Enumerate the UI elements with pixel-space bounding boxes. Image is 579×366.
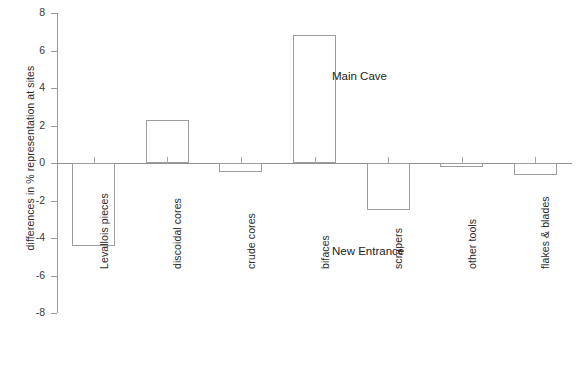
y-tick-label: -2	[36, 194, 45, 206]
bar	[219, 163, 262, 172]
y-tick: 0	[51, 163, 57, 164]
annotation-new-entrance: New Entrance	[332, 245, 404, 257]
y-tick-label: -4	[36, 231, 45, 243]
y-tick-label: -8	[36, 306, 45, 318]
y-tick: -4	[51, 238, 57, 239]
bar	[146, 120, 189, 163]
y-tick: -8	[51, 313, 57, 314]
x-axis-label: other tools	[466, 219, 478, 269]
bar	[440, 163, 483, 167]
x-axis-label: crude cores	[245, 213, 257, 269]
bar	[293, 35, 336, 163]
bar	[367, 163, 410, 210]
y-tick-label: 2	[39, 119, 45, 131]
y-tick: 6	[51, 51, 57, 52]
y-tick: 2	[51, 126, 57, 127]
y-tick-label: 8	[39, 6, 45, 18]
x-axis-label: flakes & blades	[539, 196, 551, 269]
y-tick-label: 4	[39, 81, 45, 93]
x-axis-label: discoidal cores	[171, 198, 183, 269]
annotation-main-cave: Main Cave	[332, 70, 387, 82]
y-tick-label: -6	[36, 269, 45, 281]
y-tick: -6	[51, 276, 57, 277]
bar	[514, 163, 557, 175]
y-tick-label: 0	[39, 156, 45, 168]
y-axis-title: differences in % representation at sites	[24, 8, 36, 308]
y-tick: 4	[51, 88, 57, 89]
plot-area: 86420-2-4-6-8 Levallois piecesdiscoidal …	[57, 13, 572, 313]
y-tick-label: 6	[39, 44, 45, 56]
y-tick: -2	[51, 201, 57, 202]
bar-chart: differences in % representation at sites…	[0, 0, 579, 366]
x-axis-label: bifaces	[319, 235, 331, 269]
y-tick: 8	[51, 13, 57, 14]
x-axis-label: Levallois pieces	[98, 193, 110, 269]
